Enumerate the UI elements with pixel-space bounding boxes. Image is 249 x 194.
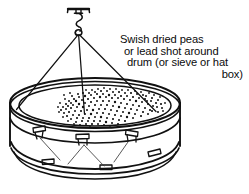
tension-lug: [148, 149, 161, 157]
suspension-cord-left: [17, 35, 79, 110]
ceiling-bracket-icon: [68, 9, 90, 14]
figure-canvas: Swish dried peas or lead shot around dru…: [0, 0, 249, 194]
drum-illustration: [0, 0, 249, 194]
s-hook-icon: [75, 14, 82, 36]
caption-line-4: box): [114, 69, 245, 81]
caption-line-1: Swish dried peas: [114, 34, 245, 46]
caption-text: Swish dried peas or lead shot around dru…: [114, 34, 245, 80]
drum-lower-hoop: [11, 142, 179, 174]
suspension-cord-center: [79, 35, 85, 114]
